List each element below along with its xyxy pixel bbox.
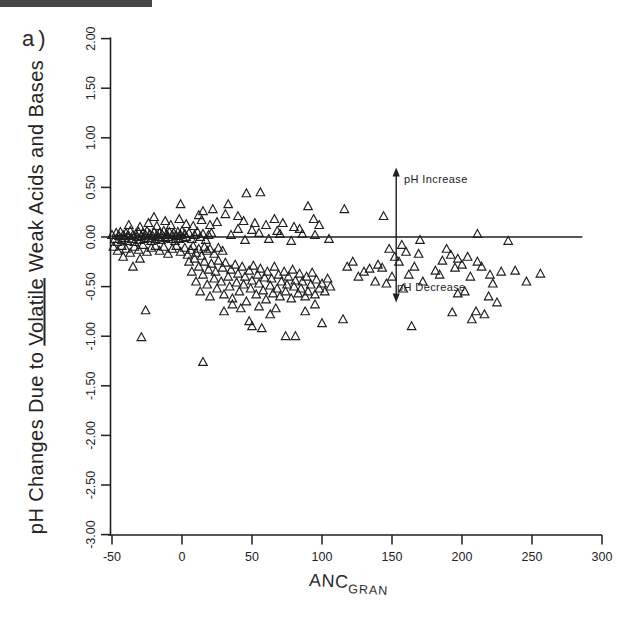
- data-point-triangle: [137, 333, 146, 341]
- data-point-triangle: [153, 222, 162, 230]
- data-point-triangle: [288, 265, 297, 273]
- data-point-triangle: [231, 260, 240, 268]
- data-point-triangle: [486, 270, 495, 278]
- y-tick-label: -2.50: [84, 471, 98, 500]
- data-point-triangle: [161, 217, 170, 225]
- y-tick-label: 0.50: [84, 175, 98, 199]
- data-point-triangle: [204, 265, 213, 273]
- data-point-triangle: [195, 262, 204, 270]
- data-point-triangle: [228, 300, 237, 308]
- data-point-triangle: [307, 280, 316, 288]
- data-point-triangle: [398, 240, 407, 248]
- data-point-triangle: [265, 234, 274, 242]
- data-point-triangle: [438, 256, 447, 264]
- data-point-triangle: [291, 332, 300, 340]
- y-tick-label: 1.50: [84, 76, 98, 100]
- data-point-triangle: [354, 272, 363, 280]
- data-point-triangle: [270, 262, 279, 270]
- data-point-triangle: [461, 287, 470, 295]
- data-point-triangle: [213, 218, 222, 226]
- data-point-triangle: [468, 315, 477, 323]
- data-point-triangle: [270, 215, 279, 223]
- scatter-plot: 2.001.501.000.500.00-0.50-1.00-1.50-2.00…: [0, 0, 638, 623]
- data-point-triangle: [365, 264, 374, 272]
- data-point-triangle: [458, 260, 467, 268]
- figure-panel: a) pH Changes Due to Volatile Weak Acids…: [0, 0, 638, 623]
- data-point-triangle: [323, 274, 332, 282]
- data-point-triangle: [385, 244, 394, 252]
- data-point-triangle: [480, 310, 489, 318]
- data-point-triangle: [374, 260, 383, 268]
- data-point-triangle: [463, 252, 472, 260]
- data-point-triangle: [442, 244, 451, 252]
- data-point-triangle: [304, 202, 313, 210]
- data-point-triangle: [410, 262, 419, 270]
- x-tick-label: 250: [522, 550, 543, 564]
- data-point-triangle: [308, 268, 317, 276]
- data-point-triangle: [199, 270, 208, 278]
- x-tick-label: 0: [179, 550, 186, 564]
- data-point-triangle: [414, 249, 423, 257]
- y-tick-label: 0.00: [84, 225, 98, 249]
- data-point-triangle: [242, 189, 251, 197]
- y-tick-label: 1.00: [84, 126, 98, 150]
- data-point-triangle: [253, 270, 262, 278]
- down-arrowhead-icon: [393, 293, 400, 302]
- data-point-triangle: [472, 307, 481, 315]
- data-point-triangle: [447, 250, 456, 258]
- data-point-triangle: [221, 210, 230, 218]
- data-point-triangle: [473, 230, 482, 238]
- data-point-triangle: [405, 270, 414, 278]
- data-point-triangle: [301, 307, 310, 315]
- data-point-triangle: [325, 234, 334, 242]
- y-tick-label: 2.00: [84, 26, 98, 50]
- data-point-triangle: [272, 304, 281, 312]
- data-point-triangle: [234, 212, 243, 220]
- data-point-triangle: [309, 215, 318, 223]
- y-tick-label: -1.50: [84, 372, 98, 401]
- data-point-triangle: [269, 289, 278, 297]
- data-point-triangle: [248, 322, 257, 330]
- x-tick-label: -50: [103, 550, 121, 564]
- data-point-triangle: [326, 282, 335, 290]
- data-point-triangle: [175, 215, 184, 223]
- data-point-triangle: [150, 213, 159, 221]
- data-point-triangle: [298, 277, 307, 285]
- y-tick-label: -1.00: [84, 322, 98, 351]
- data-point-triangle: [239, 217, 248, 225]
- data-point-triangle: [489, 279, 498, 287]
- data-point-triangle: [419, 277, 428, 285]
- data-point-triangle: [407, 322, 416, 330]
- data-point-triangle: [220, 307, 229, 315]
- data-point-triangle: [281, 332, 290, 340]
- data-point-triangle: [318, 319, 327, 327]
- x-tick-label: 50: [245, 550, 259, 564]
- up-arrowhead-icon: [393, 168, 400, 177]
- data-point-triangle: [262, 221, 271, 229]
- data-point-triangle: [245, 317, 254, 325]
- data-point-triangle: [339, 315, 348, 323]
- data-point-triangle: [340, 205, 349, 213]
- data-point-triangle: [315, 221, 324, 229]
- data-point-triangle: [266, 310, 275, 318]
- data-point-triangle: [311, 300, 320, 308]
- data-point-triangle: [182, 220, 191, 228]
- data-point-triangle: [477, 262, 486, 270]
- data-point-triangle: [349, 257, 358, 265]
- data-point-triangle: [511, 266, 520, 274]
- data-point-triangle: [279, 219, 288, 227]
- y-tick-label: -0.50: [84, 272, 98, 301]
- data-point-triangle: [388, 272, 397, 280]
- data-point-triangle: [209, 205, 218, 213]
- data-point-triangle: [391, 252, 400, 260]
- data-point-triangle: [379, 212, 388, 220]
- data-point-triangle: [256, 188, 265, 196]
- data-point-triangle: [129, 262, 138, 270]
- data-point-triangle: [466, 272, 475, 280]
- data-point-triangle: [242, 297, 251, 305]
- data-point-triangle: [189, 222, 198, 230]
- data-point-triangle: [239, 280, 248, 288]
- data-point-triangle: [234, 225, 243, 233]
- data-point-triangle: [497, 267, 506, 275]
- data-point-triangle: [238, 262, 247, 270]
